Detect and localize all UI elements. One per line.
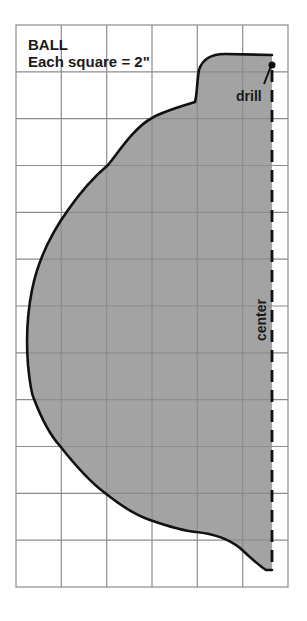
scale-note: Each square = 2" [28,53,150,70]
diagram-title: BALL [28,36,68,53]
drill-label: drill [236,88,262,104]
center-label: center [253,298,269,341]
ball-pattern-diagram: BALL Each square = 2" drill center [0,0,307,621]
